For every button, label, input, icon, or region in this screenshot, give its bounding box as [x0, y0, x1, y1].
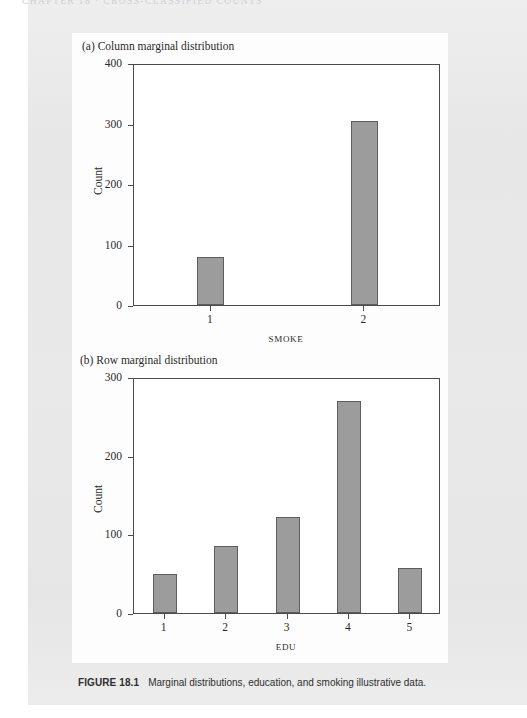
y-tick-label: 0 [88, 299, 122, 311]
y-tick-mark [128, 246, 133, 247]
chart-b-title: (b) Row marginal distribution [80, 354, 217, 366]
y-tick-mark [128, 378, 133, 379]
y-tick-mark [128, 457, 133, 458]
y-tick-mark [128, 535, 133, 536]
y-tick-label: 400 [88, 57, 122, 69]
running-head: CHAPTER 18 · CROSS-CLASSIFIED COUNTS [22, 0, 322, 8]
chart-a-title: (a) Column marginal distribution [82, 40, 234, 52]
x-tick-label: 4 [338, 621, 358, 633]
x-tick-mark [363, 306, 364, 311]
page-root: CHAPTER 18 · CROSS-CLASSIFIED COUNTS (a)… [0, 0, 527, 718]
chart-b-plot-area [133, 378, 440, 614]
x-tick-label: 1 [200, 313, 220, 325]
chart-b-bars-container [134, 379, 439, 613]
chart-b-xlabel: EDU [236, 642, 336, 652]
figure-caption-text: Marginal distributions, education, and s… [148, 677, 426, 688]
x-tick-mark [287, 614, 288, 619]
bar [214, 546, 238, 613]
y-tick-label: 300 [88, 371, 122, 383]
y-tick-label: 200 [88, 178, 122, 190]
x-tick-label: 2 [353, 313, 373, 325]
bar [398, 568, 422, 613]
x-tick-label: 3 [277, 621, 297, 633]
y-tick-label: 100 [88, 239, 122, 251]
x-tick-mark [164, 614, 165, 619]
bar [153, 574, 177, 613]
y-tick-label: 300 [88, 118, 122, 130]
x-tick-mark [225, 614, 226, 619]
y-tick-label: 200 [88, 450, 122, 462]
x-tick-label: 1 [154, 621, 174, 633]
chart-a-xlabel: SMOKE [236, 334, 336, 344]
bar [337, 401, 361, 613]
y-tick-label: 100 [88, 528, 122, 540]
x-tick-label: 2 [215, 621, 235, 633]
figure-caption: FIGURE 18.1Marginal distributions, educa… [78, 677, 508, 688]
x-tick-mark [348, 614, 349, 619]
y-tick-mark [128, 125, 133, 126]
y-tick-mark [128, 614, 133, 615]
figure-number: FIGURE 18.1 [78, 677, 139, 688]
page-bottom-margin [0, 705, 527, 718]
x-tick-label: 5 [399, 621, 419, 633]
y-tick-mark [128, 185, 133, 186]
x-tick-mark [210, 306, 211, 311]
y-tick-mark [128, 306, 133, 307]
chart-a-plot-area [133, 64, 440, 306]
x-tick-mark [409, 614, 410, 619]
bar [351, 121, 378, 305]
y-tick-mark [128, 64, 133, 65]
bar [276, 517, 300, 613]
chart-a-bars-container [134, 65, 439, 305]
y-tick-label: 0 [88, 607, 122, 619]
chart-b-ylabel: Count [92, 485, 104, 513]
bar [197, 257, 224, 305]
